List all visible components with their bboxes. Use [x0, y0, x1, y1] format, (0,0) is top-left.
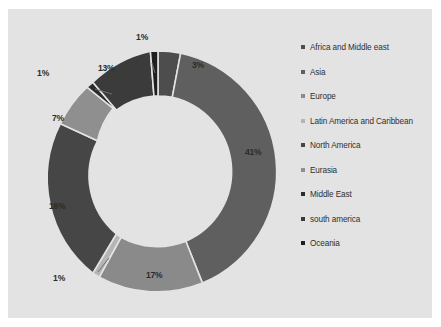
slice-label-latin-america-and-caribbean: 1%	[53, 273, 65, 283]
legend-label: Oceania	[310, 238, 340, 249]
legend-swatch-icon	[301, 70, 305, 74]
chart-panel: 3% 41% 17% 16% 7% 13% 1% 1% 1% Africa an…	[8, 9, 432, 318]
slice-label-south-america: 13%	[98, 63, 114, 73]
legend-label: Asia	[310, 67, 326, 78]
legend-swatch-icon	[301, 192, 305, 196]
legend-label: North America	[310, 140, 361, 151]
chart-legend: Africa and Middle east Asia Europe Latin…	[301, 42, 429, 263]
legend-item-south-america[interactable]: south america	[301, 214, 429, 225]
legend-item-eurasia[interactable]: Eurasia	[301, 165, 429, 176]
slice-label-eurasia: 7%	[52, 113, 64, 123]
legend-label: Eurasia	[310, 165, 337, 176]
slice-label-africa-and-middle-east: 3%	[192, 60, 204, 70]
legend-swatch-icon	[301, 119, 305, 123]
legend-label: Europe	[310, 91, 336, 102]
legend-item-latin-america-and-caribbean[interactable]: Latin America and Caribbean	[301, 116, 429, 127]
legend-swatch-icon	[301, 168, 305, 172]
legend-item-africa-and-middle-east[interactable]: Africa and Middle east	[301, 42, 429, 53]
legend-swatch-icon	[301, 94, 305, 98]
legend-item-europe[interactable]: Europe	[301, 91, 429, 102]
legend-swatch-icon	[301, 217, 305, 221]
legend-swatch-icon	[301, 241, 305, 245]
legend-item-middle-east[interactable]: Middle East	[301, 189, 429, 200]
slice-label-europe: 17%	[146, 270, 162, 280]
slice-label-asia: 41%	[245, 147, 261, 157]
slice-north-america[interactable]	[47, 124, 116, 273]
legend-item-north-america[interactable]: North America	[301, 140, 429, 151]
legend-label: Latin America and Caribbean	[310, 116, 413, 127]
legend-item-oceania[interactable]: Oceania	[301, 238, 429, 249]
legend-swatch-icon	[301, 45, 305, 49]
slice-label-north-america: 16%	[49, 201, 65, 211]
legend-label: Middle East	[310, 189, 352, 200]
legend-label: Africa and Middle east	[310, 42, 389, 53]
donut-chart: 3% 41% 17% 16% 7% 13% 1% 1% 1%	[24, 23, 292, 313]
donut-slices	[47, 51, 276, 292]
legend-label: south america	[310, 214, 360, 225]
chart-screenshot: 3% 41% 17% 16% 7% 13% 1% 1% 1% Africa an…	[0, 0, 441, 327]
slice-label-middle-east: 1%	[37, 68, 49, 78]
legend-item-asia[interactable]: Asia	[301, 67, 429, 78]
slice-label-oceania: 1%	[136, 32, 148, 42]
legend-swatch-icon	[301, 143, 305, 147]
